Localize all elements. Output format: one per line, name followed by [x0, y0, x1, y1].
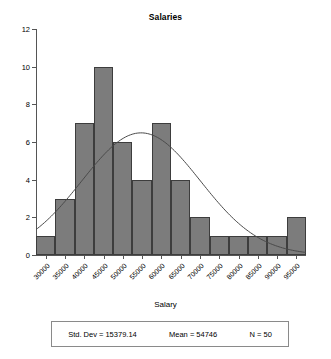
histogram-bar: [171, 180, 190, 255]
histogram-bar: [132, 180, 151, 255]
x-tick-mark: [65, 255, 66, 259]
histogram-bar: [210, 236, 229, 255]
histogram-bar: [36, 236, 55, 255]
histogram-bar: [113, 142, 132, 255]
y-tick-mark: [32, 255, 36, 256]
y-tick-mark: [32, 142, 36, 143]
x-tick-mark: [219, 255, 220, 259]
histogram-bar: [55, 199, 74, 256]
x-axis-title: Salary: [0, 300, 331, 309]
x-tick-label: 40000: [70, 262, 89, 281]
y-tick-mark: [32, 29, 36, 30]
x-tick-mark: [104, 255, 105, 259]
y-tick-label: 8: [26, 100, 30, 109]
x-tick-label: 45000: [90, 262, 109, 281]
histogram-bar: [94, 67, 113, 255]
histogram-bar: [248, 236, 267, 255]
x-tick-mark: [142, 255, 143, 259]
histogram-bar: [287, 217, 306, 255]
x-tick-label: 55000: [128, 262, 147, 281]
n-stat: N = 50: [250, 330, 272, 339]
mean-stat: Mean = 54746: [169, 330, 217, 339]
y-tick-label: 6: [26, 138, 30, 147]
x-tick-mark: [181, 255, 182, 259]
x-tick-mark: [161, 255, 162, 259]
histogram-bar: [75, 123, 94, 255]
x-tick-label: 35000: [51, 262, 70, 281]
y-tick-label: 12: [22, 25, 30, 34]
histogram-bar: [190, 217, 209, 255]
histogram-bar: [152, 123, 171, 255]
x-tick-label: 70000: [186, 262, 205, 281]
x-tick-label: 50000: [109, 262, 128, 281]
y-tick-label: 2: [26, 213, 30, 222]
x-tick-mark: [296, 255, 297, 259]
histogram-figure: Salaries 024681012 300003500040000450005…: [0, 0, 331, 359]
x-tick-label: 85000: [244, 262, 263, 281]
y-tick-mark: [32, 67, 36, 68]
histogram-bar: [267, 236, 286, 255]
y-tick-label: 10: [22, 62, 30, 71]
statistics-box: Std. Dev = 15379.14 Mean = 54746 N = 50: [51, 321, 289, 347]
page-title: Salaries: [0, 12, 331, 22]
x-tick-mark: [46, 255, 47, 259]
y-tick-mark: [32, 104, 36, 105]
x-tick-mark: [123, 255, 124, 259]
x-tick-label: 90000: [263, 262, 282, 281]
x-tick-label: 30000: [32, 262, 51, 281]
x-tick-mark: [84, 255, 85, 259]
x-tick-label: 60000: [148, 262, 167, 281]
x-tick-label: 95000: [283, 262, 302, 281]
y-tick-label: 0: [26, 251, 30, 260]
y-tick-mark: [32, 180, 36, 181]
plot-area: [36, 29, 306, 255]
y-tick-mark: [32, 217, 36, 218]
x-axis-line: [36, 255, 306, 256]
x-tick-label: 65000: [167, 262, 186, 281]
x-tick-label: 75000: [205, 262, 224, 281]
x-tick-label: 80000: [225, 262, 244, 281]
histogram-bar: [229, 236, 248, 255]
x-tick-mark: [258, 255, 259, 259]
x-tick-mark: [200, 255, 201, 259]
x-tick-mark: [239, 255, 240, 259]
y-tick-label: 4: [26, 175, 30, 184]
x-tick-mark: [277, 255, 278, 259]
std-dev-stat: Std. Dev = 15379.14: [68, 330, 137, 339]
